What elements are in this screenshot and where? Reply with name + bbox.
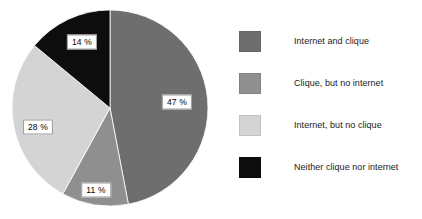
legend-item-label: Neither clique nor internet (294, 162, 398, 172)
pie-slice-value-label: 11 % (81, 183, 111, 198)
chart-legend: Internet and cliqueClique, but no intern… (239, 0, 422, 219)
legend-item-label: Internet and clique (294, 36, 369, 46)
legend-item-label: Internet, but no clique (294, 120, 382, 130)
pie-slice-value-label: 14 % (67, 35, 97, 50)
legend-item[interactable]: Clique, but no internet (239, 72, 383, 94)
pie-chart-figure: 47 %11 %28 %14 % Internet and cliqueCliq… (0, 0, 422, 219)
legend-item[interactable]: Neither clique nor internet (239, 156, 398, 178)
pie-slice-value-label: 28 % (23, 120, 53, 135)
pie-plot-area: 47 %11 %28 %14 % (0, 0, 220, 219)
legend-item[interactable]: Internet, but no clique (239, 114, 382, 136)
pie-slice-value-label: 47 % (162, 95, 192, 110)
legend-item[interactable]: Internet and clique (239, 30, 369, 52)
legend-color-swatch (239, 73, 261, 94)
legend-color-swatch (239, 31, 261, 52)
legend-color-swatch (239, 115, 261, 136)
pie-slice[interactable] (110, 10, 208, 204)
legend-item-label: Clique, but no internet (294, 78, 383, 88)
legend-color-swatch (239, 157, 261, 178)
